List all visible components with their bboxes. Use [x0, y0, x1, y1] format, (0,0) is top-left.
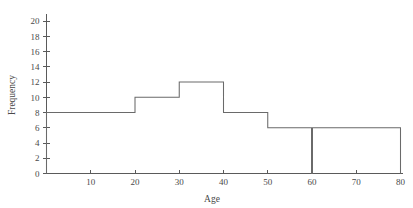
histogram-outline	[47, 82, 401, 173]
y-axis-title: Frequency	[7, 75, 17, 115]
histogram-figure: 02468101214161820 1020304050607080 Age F…	[0, 0, 413, 208]
x-tick-label: 10	[86, 177, 96, 187]
y-tick-label: 4	[35, 138, 40, 148]
axes-group	[47, 14, 403, 174]
y-tick-label: 0	[35, 169, 40, 179]
x-tick-label: 70	[352, 177, 362, 187]
x-tick-label: 20	[131, 177, 141, 187]
y-tick-label: 2	[35, 153, 40, 163]
y-tick-label: 10	[31, 93, 41, 103]
y-tick-label: 8	[35, 108, 40, 118]
y-tick-label: 12	[31, 77, 40, 87]
y-tick-label: 6	[35, 123, 40, 133]
x-tick-label: 80	[396, 177, 406, 187]
y-tick-label: 14	[31, 62, 41, 72]
x-axis-title: Age	[204, 194, 220, 204]
y-tick-label: 20	[31, 16, 41, 26]
y-axis-ticks: 02468101214161820	[31, 16, 51, 178]
y-tick-label: 16	[31, 47, 41, 57]
histogram-bars	[47, 82, 401, 173]
histogram-plot: 02468101214161820 1020304050607080 Age F…	[0, 0, 413, 208]
x-tick-label: 40	[219, 177, 229, 187]
x-tick-label: 60	[308, 177, 318, 187]
x-tick-label: 30	[175, 177, 185, 187]
x-tick-label: 50	[263, 177, 273, 187]
y-tick-label: 18	[31, 32, 41, 42]
x-axis-ticks: 1020304050607080	[86, 170, 405, 188]
